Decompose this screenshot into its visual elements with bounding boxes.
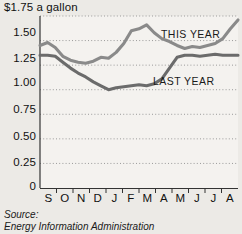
source-label: Source: [4, 209, 154, 221]
plot-background [40, 16, 238, 188]
x-tick-label-a-7: A [156, 192, 172, 204]
x-tick-label-m-6: M [139, 192, 155, 204]
x-tick-label-o-1: O [57, 192, 73, 204]
series-label-this-year: THIS YEAR [161, 28, 220, 40]
gas-price-chart-card: $1.75 a gallon 1.50 1.25 1.00 0.75 0.50 … [0, 0, 242, 234]
source-block: Source: Energy Information Administratio… [4, 209, 154, 232]
x-tick-label-j-10: J [205, 192, 221, 204]
x-tick-label-d-3: D [90, 192, 106, 204]
x-tick-label-m-8: M [172, 192, 188, 204]
x-tick-label-j-4: J [106, 192, 122, 204]
x-tick-label-s-0: S [40, 192, 56, 204]
x-tick-label-f-5: F [123, 192, 139, 204]
x-tick-label-a-11: A [222, 192, 238, 204]
series-label-last-year: LAST YEAR [153, 75, 214, 87]
x-tick-label-n-2: N [73, 192, 89, 204]
x-tick-label-j-9: J [189, 192, 205, 204]
source-agency: Energy Information Administration [4, 221, 154, 233]
